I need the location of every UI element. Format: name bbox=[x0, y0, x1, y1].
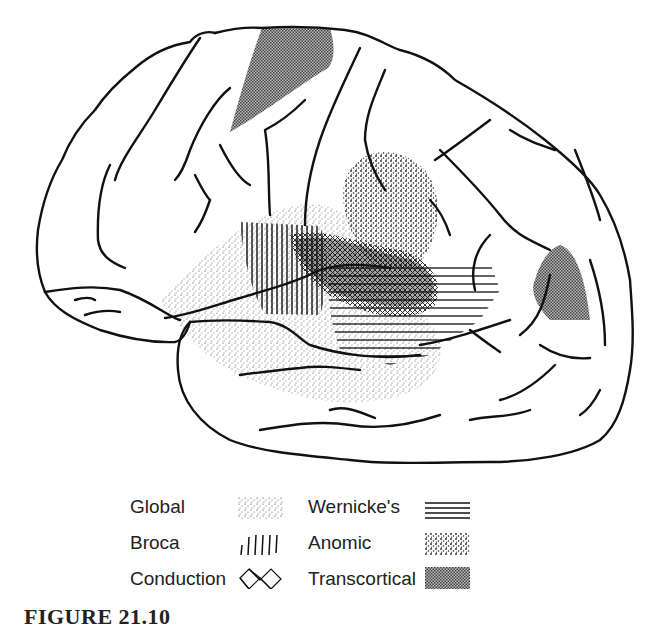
legend-label-broca: Broca bbox=[130, 532, 180, 554]
legend-swatch-transcortical bbox=[425, 567, 470, 589]
region-transcortical-motor bbox=[230, 28, 334, 132]
legend-swatch-wernicke bbox=[425, 500, 470, 522]
legend-swatch-global bbox=[238, 497, 283, 519]
legend-label-anomic: Anomic bbox=[308, 532, 371, 554]
legend-swatch-conduction bbox=[238, 567, 283, 589]
figure-caption: FIGURE 21.10 bbox=[24, 604, 171, 628]
legend-label-conduction: Conduction bbox=[130, 568, 226, 590]
legend-swatch-anomic bbox=[425, 533, 470, 555]
legend-label-wernicke: Wernicke's bbox=[308, 496, 400, 518]
legend-swatch-broca bbox=[238, 533, 283, 555]
brain-diagram bbox=[0, 0, 664, 490]
legend-label-transcortical: Transcortical bbox=[308, 568, 416, 590]
legend-label-global: Global bbox=[130, 496, 185, 518]
